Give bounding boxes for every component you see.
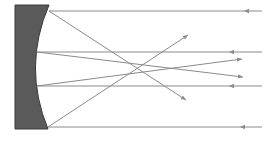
concave-mirror	[15, 5, 49, 129]
ray-diagram-canvas	[0, 0, 279, 148]
reflected-ray-2	[37, 52, 243, 77]
arrow-left-icon	[240, 125, 245, 129]
arrow-right-icon	[183, 35, 188, 40]
arrow-right-icon	[237, 57, 242, 61]
concave-mirror-diagram	[0, 0, 279, 148]
arrow-right-icon	[181, 95, 186, 100]
arrow-right-icon	[238, 74, 243, 78]
reflected-ray-3	[37, 59, 242, 86]
arrow-left-icon	[244, 9, 249, 13]
reflected-ray-4	[48, 35, 188, 127]
arrow-left-icon	[229, 84, 234, 88]
arrow-left-icon	[229, 50, 234, 54]
